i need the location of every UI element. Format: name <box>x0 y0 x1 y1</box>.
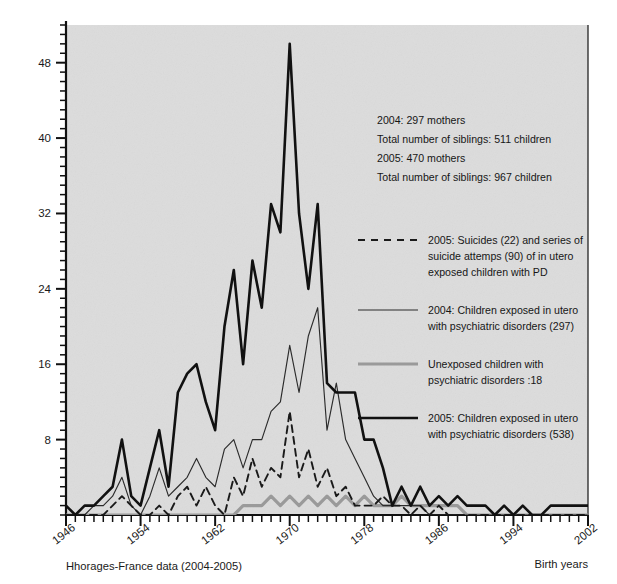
legend-label-0-1: suicide attemps (90) of in utero <box>428 250 574 262</box>
legend-label-1-0: 2004: Children exposed in utero <box>428 304 578 316</box>
annotation-line-2: 2005: 470 mothers <box>377 152 465 164</box>
x-tick-label-1986: 1986 <box>423 521 451 546</box>
y-tick-label-24: 24 <box>38 283 51 295</box>
figure-caption: Hhorages-France data (2004-2005) <box>66 560 242 572</box>
x-tick-label-1954: 1954 <box>124 521 152 547</box>
annotation-line-3: Total number of siblings: 967 children <box>377 171 552 183</box>
x-tick-label-1994: 1994 <box>497 521 525 547</box>
x-axis-title: Birth years <box>535 558 589 570</box>
y-tick-label-40: 40 <box>38 132 51 144</box>
legend-label-3-0: 2005: Children exposed in utero <box>428 412 578 424</box>
annotation-line-1: Total number of siblings: 511 children <box>377 133 551 145</box>
y-tick-label-48: 48 <box>38 57 51 69</box>
x-axis-ticks: 19461954196219701978198619942002 <box>50 515 600 546</box>
y-tick-label-16: 16 <box>38 358 51 370</box>
y-tick-label-8: 8 <box>45 434 51 446</box>
figure-container: Case number 8162432404819461954196219701… <box>0 0 617 584</box>
legend-label-0-0: 2005: Suicides (22) and series of <box>428 234 583 246</box>
y-axis-ticks: 81624324048 <box>38 25 66 515</box>
legend-label-1-1: with psychiatric disorders (297) <box>427 320 574 332</box>
x-tick-label-1978: 1978 <box>348 521 376 546</box>
annotation-line-0: 2004: 297 mothers <box>377 114 465 126</box>
x-tick-label-1962: 1962 <box>199 521 227 546</box>
y-tick-label-32: 32 <box>38 207 51 219</box>
x-tick-label-1946: 1946 <box>50 521 78 546</box>
legend-label-2-0: Unexposed children with <box>428 358 544 370</box>
x-tick-label-2002: 2002 <box>572 521 600 546</box>
chart-canvas: 8162432404819461954196219701978198619942… <box>0 0 617 584</box>
x-tick-label-1970: 1970 <box>273 521 301 546</box>
legend-label-0-2: exposed children with PD <box>428 266 548 278</box>
legend-label-3-1: with psychiatric disorders (538) <box>427 428 574 440</box>
legend-label-2-1: psychiatric disorders :18 <box>428 374 542 386</box>
